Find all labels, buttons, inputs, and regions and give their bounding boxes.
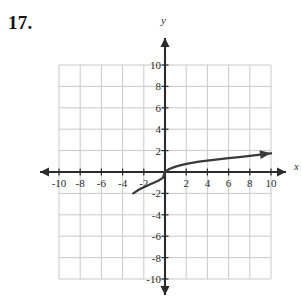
y-axis-arrow-down bbox=[160, 286, 169, 295]
x-tick-label: -4 bbox=[118, 177, 127, 189]
y-tick-label: 6 bbox=[156, 102, 162, 114]
y-axis-label: y bbox=[161, 14, 166, 26]
y-tick-label: -2 bbox=[152, 187, 161, 199]
y-tick-label: -8 bbox=[152, 252, 161, 264]
y-tick-label: -6 bbox=[152, 230, 161, 242]
x-tick-label: 2 bbox=[183, 177, 189, 189]
y-axis-arrow-up bbox=[160, 38, 169, 47]
x-tick-label: -10 bbox=[52, 177, 67, 189]
x-tick-label: 4 bbox=[205, 177, 211, 189]
x-axis-arrow-right bbox=[277, 167, 286, 176]
x-tick-label: -2 bbox=[139, 177, 148, 189]
worksheet-page: 17. y x -10-8-6-4-2246810-10-8-6-4-22468… bbox=[0, 0, 302, 301]
y-tick-label: 10 bbox=[150, 59, 161, 71]
x-tick-label: 10 bbox=[266, 177, 277, 189]
y-tick-label: 2 bbox=[156, 145, 162, 157]
y-tick-label: 8 bbox=[156, 80, 162, 92]
x-tick-label: 6 bbox=[226, 177, 232, 189]
axis-lines bbox=[40, 38, 286, 295]
x-tick-label: -8 bbox=[76, 177, 85, 189]
y-tick-label: -10 bbox=[146, 273, 161, 285]
y-tick-label: 4 bbox=[156, 123, 162, 135]
x-tick-label: -6 bbox=[97, 177, 106, 189]
x-tick-label: 8 bbox=[247, 177, 253, 189]
x-axis-label: x bbox=[294, 160, 299, 172]
coordinate-graph: y x -10-8-6-4-2246810-10-8-6-4-2246810 bbox=[0, 0, 302, 301]
x-axis-arrow-left bbox=[40, 167, 49, 176]
y-tick-label: -4 bbox=[152, 209, 161, 221]
